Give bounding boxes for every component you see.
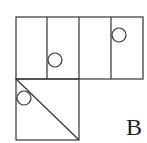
circle-bottom-square <box>17 91 31 105</box>
circle-face-4 <box>112 28 126 42</box>
circle-face-2 <box>48 53 62 67</box>
option-label: B <box>126 114 142 140</box>
bottom-diagonal <box>16 79 79 140</box>
cube-net-diagram: B <box>0 0 147 143</box>
